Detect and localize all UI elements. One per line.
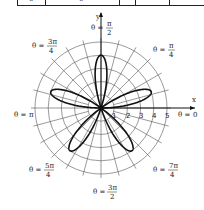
svg-text:θ =: θ = (29, 166, 41, 174)
svg-text:7π: 7π (169, 162, 178, 170)
angle-label-7pi-over-4: θ = 7π 4 (153, 162, 178, 179)
svg-text:4: 4 (169, 51, 174, 59)
svg-text:π: π (29, 111, 34, 119)
angle-label-zero: θ = 0 (178, 111, 197, 119)
svg-text:3π: 3π (108, 184, 117, 192)
svg-text:4: 4 (49, 47, 54, 55)
svg-text:θ =: θ = (178, 111, 190, 119)
angle-label-5pi-over-4: θ = 5π 4 (29, 162, 54, 179)
x-axis-label: x (192, 96, 196, 104)
svg-text:θ =: θ = (14, 111, 26, 119)
tick-1: 1 (112, 112, 116, 120)
svg-text:θ =: θ = (93, 188, 105, 196)
svg-text:4: 4 (170, 171, 175, 179)
svg-text:π: π (169, 42, 174, 50)
angle-label-pi: θ = π (14, 111, 34, 119)
svg-text:π: π (107, 20, 112, 28)
svg-text:θ =: θ = (153, 46, 165, 54)
svg-text:4: 4 (46, 171, 51, 179)
svg-text:0: 0 (193, 111, 197, 119)
tick-3: 3 (139, 112, 143, 120)
tick-4: 4 (152, 112, 157, 120)
svg-text:5π: 5π (45, 162, 54, 170)
angle-label-3pi-over-2: θ = 3π 2 (93, 184, 117, 201)
svg-text:θ =: θ = (91, 24, 103, 32)
svg-text:θ =: θ = (153, 166, 165, 174)
svg-text:2: 2 (110, 193, 114, 201)
svg-text:θ =: θ = (32, 42, 44, 50)
y-axis-label: y (95, 13, 100, 21)
angle-label-pi-over-2: θ = π 2 (91, 20, 113, 37)
svg-text:2: 2 (107, 29, 111, 37)
polar-rose-diagram: 1 2 3 4 5 y x θ = π 2 θ = π 4 θ = 3π 4 θ… (0, 0, 204, 210)
angle-label-3pi-over-4: θ = 3π 4 (32, 38, 57, 55)
svg-text:3π: 3π (48, 38, 57, 46)
tick-2: 2 (126, 112, 130, 120)
angle-label-pi-over-4: θ = π 4 (153, 42, 175, 59)
tick-5: 5 (165, 112, 169, 120)
